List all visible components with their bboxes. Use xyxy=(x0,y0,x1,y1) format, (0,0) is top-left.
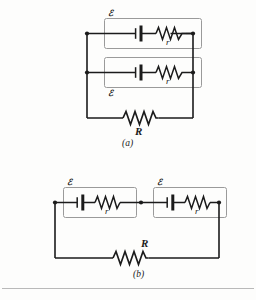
internal-resistance-label-b1: r xyxy=(105,207,109,216)
battery-cell-icon-a1 xyxy=(136,26,141,42)
battery-cell-icon-b2 xyxy=(167,195,173,211)
circuit-diagram-svg xyxy=(0,0,256,300)
load-resistor-label-a: R xyxy=(135,126,142,137)
emf-label-a1: ℰ xyxy=(108,9,113,18)
junction-node-a-top-right xyxy=(191,31,195,35)
circuit-b-group xyxy=(53,188,227,265)
page-divider-rule xyxy=(2,288,254,289)
junction-node-a-mid-left xyxy=(85,70,89,74)
resistor-zigzag-icon-b-load xyxy=(113,252,149,265)
internal-resistance-label-a1: r xyxy=(166,38,170,47)
emf-label-a2: ℰ xyxy=(108,89,113,98)
figure-root: ℰ r ℰ r R (a) ℰ r ℰ r R (b) xyxy=(0,0,256,300)
resistor-zigzag-icon-a2 xyxy=(156,67,186,79)
emf-label-b1: ℰ xyxy=(67,178,72,187)
emf-label-b2: ℰ xyxy=(157,178,162,187)
circuit-a-group xyxy=(85,19,202,125)
junction-node-a-mid-right xyxy=(191,70,195,74)
load-resistor-label-b: R xyxy=(141,238,148,249)
battery-cell-icon-a2 xyxy=(136,65,141,81)
junction-node-b-center xyxy=(139,200,143,204)
caption-b: (b) xyxy=(133,270,144,280)
junction-node-b-left xyxy=(53,200,57,204)
caption-a: (a) xyxy=(122,139,133,149)
resistor-zigzag-icon-a-load xyxy=(123,112,159,125)
battery-cell-icon-b1 xyxy=(77,195,83,211)
junction-node-a-top-left xyxy=(85,31,89,35)
junction-node-b-right xyxy=(217,200,221,204)
internal-resistance-label-a2: r xyxy=(166,77,170,86)
internal-resistance-label-b2: r xyxy=(195,207,199,216)
